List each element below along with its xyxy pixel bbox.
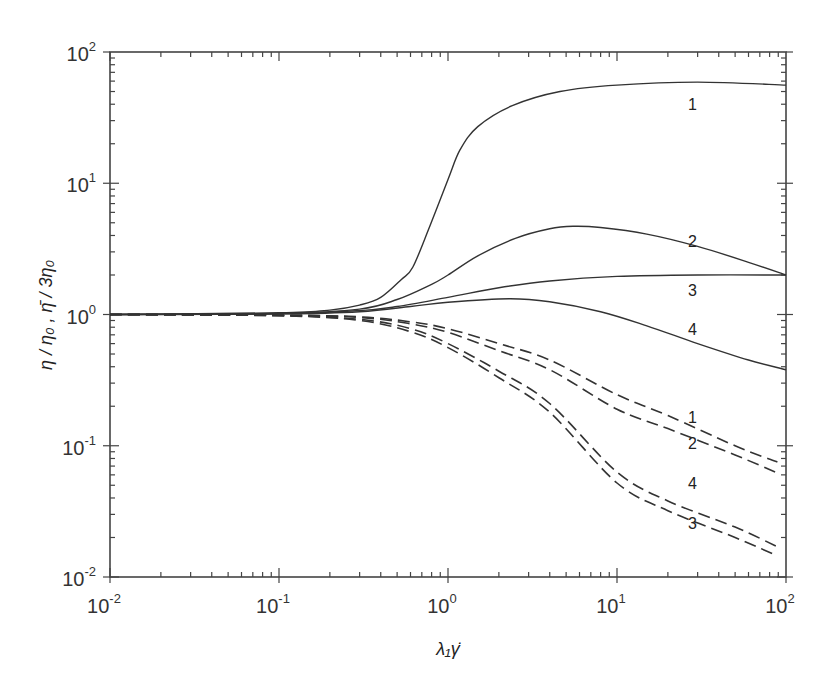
curve-solid-1	[110, 82, 786, 314]
curves	[110, 82, 786, 556]
x-tick-label: 100	[427, 591, 456, 617]
curve-label-dashed-1: 1	[688, 409, 697, 426]
curve-label-solid-4: 4	[688, 321, 697, 338]
axis-ticks	[103, 52, 793, 583]
x-tick-label: 10-1	[256, 591, 290, 617]
y-tick-label: 100	[67, 302, 96, 328]
curve-solid-3	[110, 275, 786, 315]
curve-labels: 12341243	[688, 96, 697, 531]
y-tick-label: 10-2	[62, 564, 96, 590]
curve-label-solid-1: 1	[688, 96, 697, 113]
viscosity-chart: 10-210-1100101102 10-210-1100101102 1234…	[0, 0, 835, 688]
y-tick-label: 102	[67, 39, 96, 65]
x-axis-tick-labels: 10-210-1100101102	[87, 591, 795, 617]
x-tick-label: 101	[596, 591, 625, 617]
curve-label-dashed-4: 4	[688, 475, 697, 492]
curve-dashed-3	[110, 315, 777, 556]
x-axis-title: λ₁γ̇	[435, 639, 461, 659]
curve-label-solid-3: 3	[688, 282, 697, 299]
y-axis-tick-labels: 10-210-1100101102	[62, 39, 96, 590]
x-tick-label: 10-2	[87, 591, 121, 617]
y-tick-label: 101	[67, 170, 96, 196]
curve-dashed-4	[110, 315, 777, 547]
x-tick-label: 102	[765, 591, 794, 617]
curve-dashed-2	[110, 315, 777, 474]
curve-label-solid-2: 2	[688, 233, 697, 250]
y-tick-label: 10-1	[62, 433, 96, 459]
curve-solid-4	[110, 299, 786, 370]
curve-label-dashed-2: 2	[688, 435, 697, 452]
curve-solid-2	[110, 226, 786, 314]
curve-label-dashed-3: 3	[688, 515, 697, 532]
y-axis-title: η / η₀ , η̄ / 3η₀	[36, 260, 56, 371]
